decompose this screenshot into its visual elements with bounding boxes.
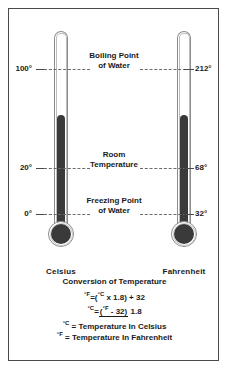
scale-value-fahrenheit-freezing: 32° [195,209,207,218]
scale-value-celsius-room: 20° [20,163,32,172]
scale-value-fahrenheit-room: 68° [195,163,207,172]
formula-f-remainder: x 1.8) + 32 [104,293,145,302]
thermometer-bulb-celsius [51,224,71,244]
thermometer-label-celsius: Celsius [6,267,116,276]
scale-caption-room-temperature: Room Temperature [64,150,164,170]
formula-fahrenheit: °F=(°C x 1.8) + 32 [17,293,212,302]
legend-fahrenheit: °F = Temperature In Fahrenheit [17,332,212,343]
formula-c-numerator-rest: - 32) [109,307,128,316]
legend-celsius-text: = Temperature In Celsius [69,322,166,331]
tick-stub-right-freezing [184,214,194,215]
dash-line-right-room [140,168,186,169]
legend-fahrenheit-text: = Temperature In Fahrenheit [63,333,172,342]
caption-line-1: Freezing Point [64,196,164,206]
formula-c-fraction: (°F - 32) 1.8 [99,307,142,316]
thermometer-label-fahrenheit: Fahrenheit [129,267,229,276]
caption-line-1: Room [64,150,164,160]
dash-line-left-boiling [44,69,90,70]
scale-value-celsius-boiling: 100° [15,64,32,73]
scale-caption-boiling-point: Boiling Point of Water [64,51,164,71]
tick-stub-right-boiling [184,69,194,70]
conversion-block: Conversion of Temperature °F=(°C x 1.8) … [17,277,212,343]
scale-value-celsius-freezing: 0° [24,209,32,218]
caption-line-1: Boiling Point [64,51,164,61]
thermometer-bulb-fahrenheit [174,224,194,244]
tick-stub-right-room [184,168,194,169]
diagram-frame: Celsius Fahrenheit Boiling Point of Wate… [8,8,219,361]
dash-line-left-room [44,168,90,169]
dash-line-right-boiling [140,69,186,70]
dash-line-right-freezing [140,214,186,215]
formula-celsius: °C= (°F - 32) 1.8 [17,307,212,316]
formula-c-numerator: (°F - 32) [99,307,128,317]
scale-value-fahrenheit-boiling: 212° [195,64,212,73]
legend-celsius: °C = Temperature In Celsius [17,321,212,332]
scale-caption-freezing-point: Freezing Point of Water [64,196,164,216]
formula-c-denominator: 1.8 [130,306,141,316]
mercury-column-fahrenheit [180,115,188,223]
dash-line-left-freezing [44,214,90,215]
conversion-title: Conversion of Temperature [17,277,212,286]
